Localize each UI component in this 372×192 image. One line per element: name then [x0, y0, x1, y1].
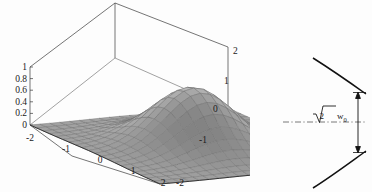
surface-svg: 1 0.8 0.6 0.4 0.2 0 -2 -1 0 1 2 2 1 0 -1 — [0, 0, 250, 192]
beam-envelope-lower — [313, 151, 366, 188]
y-tick-label: 2 — [233, 46, 238, 56]
figure-root: 1 0.8 0.6 0.4 0.2 0 -2 -1 0 1 2 2 1 0 -1 — [0, 0, 372, 192]
beam-waist-diagram: 2 w 0 — [250, 0, 372, 192]
z-tick-label: 0.8 — [15, 74, 27, 84]
y-tick-label: 1 — [224, 76, 229, 86]
gaussian-surface-plot: 1 0.8 0.6 0.4 0.2 0 -2 -1 0 1 2 2 1 0 -1 — [0, 0, 250, 192]
radical-icon — [313, 106, 336, 123]
z-tick-label: 0.4 — [15, 97, 27, 107]
z-tick-label: 0 — [22, 120, 27, 130]
y-tick-label: 0 — [213, 104, 218, 114]
y-tick-label: -1 — [199, 135, 207, 145]
x-tick-label: 1 — [131, 166, 136, 176]
y-tick-label: -2 — [176, 178, 184, 188]
beam-svg: 2 w 0 — [250, 0, 372, 192]
beam-width-label: 2 w 0 — [313, 106, 347, 123]
beam-width-arrow — [353, 92, 366, 153]
beam-subscript: 0 — [344, 116, 347, 123]
x-tick-label: 0 — [98, 155, 103, 165]
beam-envelope-upper — [313, 58, 366, 94]
z-axis-ticks — [30, 67, 33, 125]
z-tick-label: 1 — [22, 62, 27, 72]
z-axis-labels: 1 0.8 0.6 0.4 0.2 0 — [15, 62, 27, 130]
z-tick-label: 0.6 — [15, 85, 27, 95]
x-tick-label: -1 — [62, 144, 70, 154]
x-tick-label: -2 — [26, 133, 34, 143]
x-tick-label: 2 — [161, 178, 166, 188]
z-tick-label: 0.2 — [15, 108, 27, 118]
gaussian-mesh-surface — [30, 87, 250, 184]
radicand: 2 — [320, 111, 325, 121]
